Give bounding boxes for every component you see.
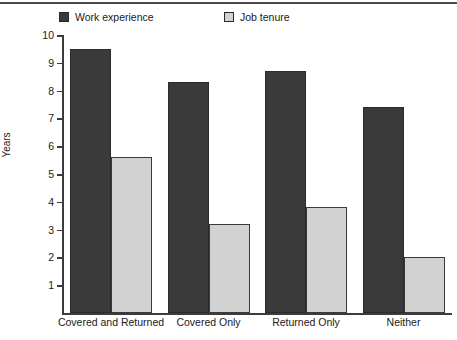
y-tick-label: 8	[48, 85, 54, 96]
bar-work-experience	[363, 107, 404, 313]
x-category-label: Neither	[387, 316, 421, 328]
y-tick-label: 1	[48, 280, 54, 291]
bar-job-tenure	[209, 224, 250, 313]
legend-label-work-experience: Work experience	[75, 11, 154, 23]
legend-label-job-tenure: Job tenure	[240, 11, 290, 23]
y-tick-label: 6	[48, 141, 54, 152]
x-category-label: Covered and Returned	[58, 316, 164, 328]
y-axis-title: Years	[1, 132, 12, 157]
x-category-label: Returned Only	[272, 316, 340, 328]
bar-series-group	[62, 35, 452, 313]
top-divider-rule	[0, 2, 457, 4]
x-axis-line	[62, 313, 452, 315]
bar-work-experience	[70, 49, 111, 313]
y-tick-label: 2	[48, 252, 54, 263]
y-tick-label: 4	[48, 197, 54, 208]
x-category-label: Covered Only	[176, 316, 240, 328]
chart-legend: Work experience Job tenure	[0, 11, 457, 27]
y-tick-label: 7	[48, 113, 54, 124]
bar-job-tenure	[111, 157, 152, 313]
bar-chart-figure: Work experience Job tenure Years 1234567…	[0, 0, 457, 340]
y-tick-label: 3	[48, 224, 54, 235]
light-square-icon	[224, 12, 234, 22]
dark-square-icon	[59, 12, 69, 22]
bar-job-tenure	[306, 207, 347, 313]
y-tick-label: 10	[42, 30, 54, 41]
bar-work-experience	[168, 82, 209, 313]
x-axis-category-labels: Covered and ReturnedCovered OnlyReturned…	[62, 316, 457, 334]
bar-work-experience	[265, 71, 306, 313]
plot-area: 12345678910	[62, 35, 452, 313]
legend-item-job-tenure: Job tenure	[224, 11, 290, 23]
y-tick-label: 5	[48, 169, 54, 180]
legend-item-work-experience: Work experience	[59, 11, 154, 23]
bar-job-tenure	[404, 257, 445, 313]
y-tick-label: 9	[48, 58, 54, 69]
